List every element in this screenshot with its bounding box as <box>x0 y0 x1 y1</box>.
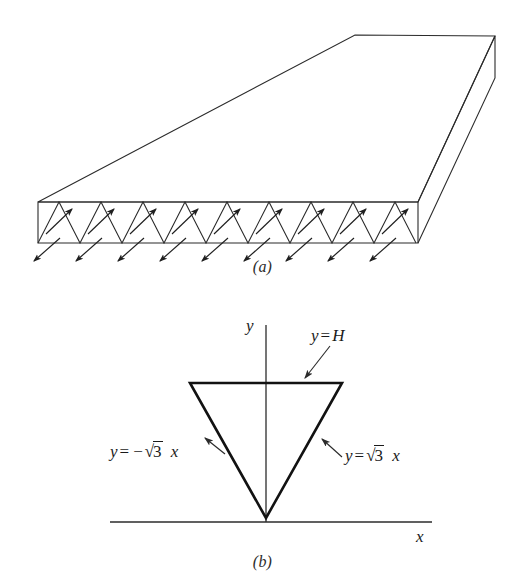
coordinate-axes <box>110 325 432 522</box>
figure-root: (a) y x y=H <box>0 0 525 584</box>
label-top-edge-equation: y=H <box>311 326 344 346</box>
label-top-edge-lhs: y <box>311 326 319 345</box>
slab-svg <box>0 0 525 292</box>
panel-a-slab-diagram <box>0 0 525 292</box>
caption-panel-a: (a) <box>0 258 525 276</box>
label-right-edge-radicand: 3 <box>374 445 384 465</box>
label-right-edge-lhs: y <box>345 446 353 465</box>
x-axis-label: x <box>416 527 424 547</box>
slab-right-face <box>418 36 495 243</box>
label-top-edge-operator: = <box>319 326 333 345</box>
cross-section-svg <box>0 292 525 584</box>
label-left-edge-operator: = <box>118 442 132 461</box>
label-left-edge-lhs: y <box>110 442 118 461</box>
label-left-edge-equation: y=−√3 x <box>110 442 178 462</box>
label-right-edge-variable: x <box>392 446 400 465</box>
slab-top-face <box>38 35 495 202</box>
leader-to-right-edge <box>322 439 342 457</box>
label-right-edge-operator: = <box>353 446 367 465</box>
slab-inner-flux-arrows <box>46 209 408 234</box>
label-right-edge-equation: y=√3 x <box>345 446 400 466</box>
label-left-edge-sign: − <box>131 442 145 461</box>
panel-b-cross-section <box>0 292 525 584</box>
slab-front-face <box>38 202 418 243</box>
slab-zigzag-pattern <box>38 202 416 243</box>
y-axis-label: y <box>246 316 254 336</box>
leader-to-top-edge <box>305 346 330 378</box>
leader-lines <box>205 346 342 457</box>
label-top-edge-rhs: H <box>332 326 344 345</box>
caption-panel-b: (b) <box>0 553 525 571</box>
label-left-edge-variable: x <box>171 442 179 461</box>
label-left-edge-radicand: 3 <box>153 441 163 461</box>
